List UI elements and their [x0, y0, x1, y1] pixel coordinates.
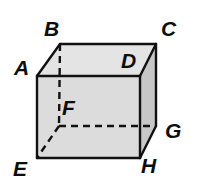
cube-figure: A B C D E F G H	[0, 0, 197, 195]
vertex-label-D: D	[121, 50, 136, 71]
front-face	[37, 76, 140, 158]
vertex-label-A: A	[14, 57, 29, 78]
vertex-label-B: B	[44, 18, 59, 39]
vertex-label-G: G	[165, 120, 181, 141]
top-face	[37, 44, 156, 76]
vertex-label-C: C	[161, 18, 176, 39]
vertex-label-E: E	[13, 158, 27, 179]
vertex-label-H: H	[141, 155, 156, 176]
vertex-label-F: F	[62, 97, 75, 118]
